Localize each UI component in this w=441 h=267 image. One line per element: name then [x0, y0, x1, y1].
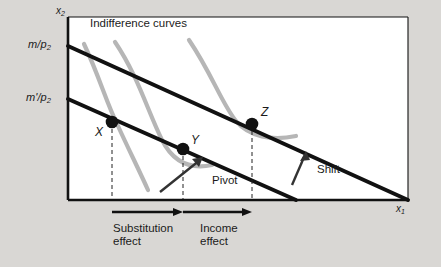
income-effect-label: Incomeeffect [200, 222, 238, 248]
intercept-label-m-prime-over-p2-text: m'/p [26, 91, 47, 103]
substitution-effect-label-line2: effect [113, 235, 173, 248]
point-z-marker [246, 118, 259, 131]
substitution-effect-arrow [112, 208, 183, 216]
indifference-curves-label: Indifference curves [90, 17, 187, 30]
point-y-label: Y [191, 134, 199, 147]
intercept-label-m-over-p2: m/p2 [28, 38, 51, 52]
intercept-label-m-prime-over-p2: m'/p2 [26, 91, 51, 105]
intercept-label-m-prime-over-p2-subscript: 2 [47, 96, 51, 105]
x-axis-label: x1 [396, 203, 405, 215]
substitution-effect-label-line1: Substitution [113, 222, 173, 235]
shift-label: Shift [317, 163, 340, 176]
point-x-label: X [95, 126, 103, 139]
x-axis-label-subscript: 1 [401, 208, 405, 215]
point-y-marker [177, 143, 190, 156]
point-x-marker [106, 116, 119, 129]
income-effect-label-line1: Income [200, 222, 238, 235]
income-effect-arrow [183, 208, 252, 216]
figure-container: x2 x1 m/p2 m'/p2 Indifference curves X Y… [0, 0, 441, 267]
y-axis-label: x2 [56, 5, 65, 17]
y-axis-label-subscript: 2 [61, 10, 65, 17]
figure-canvas: x2 x1 m/p2 m'/p2 Indifference curves X Y… [0, 0, 441, 267]
substitution-effect-label: Substitutioneffect [113, 222, 173, 248]
intercept-label-m-over-p2-text: m/p [28, 38, 47, 50]
income-effect-label-line2: effect [200, 235, 238, 248]
intercept-label-m-over-p2-subscript: 2 [47, 43, 51, 52]
point-z-label: Z [261, 106, 268, 119]
pivot-label: Pivot [212, 174, 238, 187]
